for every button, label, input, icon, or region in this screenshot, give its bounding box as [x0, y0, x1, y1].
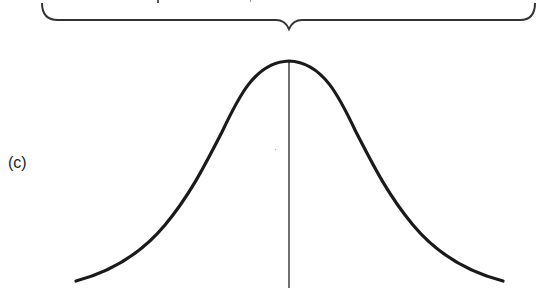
top-cutoff-marks — [157, 0, 251, 3]
bell-curve-diagram — [0, 0, 545, 288]
curly-brace — [42, 3, 535, 29]
speck — [275, 149, 276, 150]
panel-label: (c) — [8, 154, 27, 172]
